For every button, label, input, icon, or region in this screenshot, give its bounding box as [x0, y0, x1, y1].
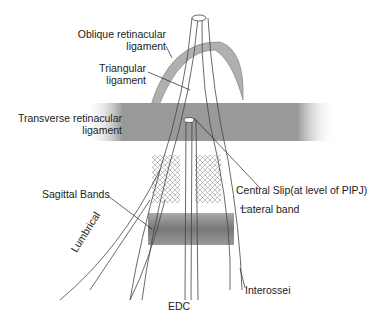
label-text: ligament — [88, 74, 146, 86]
label-central-slip: Central Slip(at level of PIPJ) — [236, 184, 367, 196]
label-interossei: Interossei — [245, 284, 291, 296]
label-triangular-ligament: Triangular ligament — [88, 62, 146, 86]
label-text: ligament — [16, 124, 122, 136]
anatomy-illustration — [0, 0, 380, 323]
label-text: Transverse retinacular — [16, 112, 122, 124]
label-sagittal-bands: Sagittal Bands — [42, 188, 110, 200]
label-text: Oblique retinacular — [70, 28, 166, 40]
extensor-mechanism-diagram: Oblique retinacular ligament Triangular … — [0, 0, 380, 323]
label-text: ligament — [70, 40, 166, 52]
label-text: Triangular — [88, 62, 146, 74]
label-transverse-retinacular-ligament: Transverse retinacular ligament — [16, 112, 122, 136]
label-lateral-band: Lateral band — [241, 203, 299, 215]
label-edc: EDC — [168, 300, 190, 312]
label-oblique-retinacular-ligament: Oblique retinacular ligament — [70, 28, 166, 52]
